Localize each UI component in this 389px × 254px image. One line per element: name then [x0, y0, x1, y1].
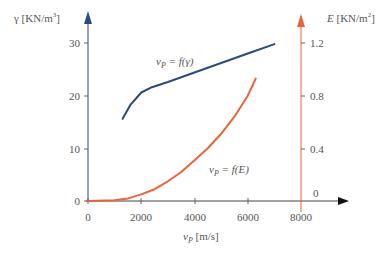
x-axis-title: vP [m/s] — [183, 231, 219, 245]
right-axis-title: E [KN/m2] — [327, 12, 375, 24]
left-tick-label-30: 30 — [50, 38, 80, 49]
series-vp-gamma-annotation: vP = f(γ) — [156, 56, 193, 70]
left-tick-label-10: 10 — [50, 144, 80, 155]
x-tick-label-8000: 8000 — [281, 212, 321, 223]
right-axis-title-close: ] — [371, 12, 375, 24]
left-tick-label-20: 20 — [50, 91, 80, 102]
annotation2-eq: = f(E) — [219, 163, 249, 175]
right-axis-title-var: E — [327, 12, 334, 24]
x-tick-label-0: 0 — [68, 212, 108, 223]
right-axis-title-text: [KN/m — [334, 12, 368, 24]
series-vp-e-annotation: vP = f(E) — [209, 164, 249, 178]
x-tick-label-6000: 6000 — [228, 212, 268, 223]
series-vp-e-line — [88, 79, 256, 202]
x-axis-arrow-icon — [338, 197, 349, 205]
right-tick-label-0.4: 0.4 — [310, 144, 324, 155]
right-tick-label-1.2: 1.2 — [310, 38, 324, 49]
left-y-axis-ticks — [84, 43, 88, 201]
series-vp-gamma-line — [123, 44, 275, 119]
annotation1-eq: = f(γ) — [166, 55, 194, 67]
x-tick-label-2000: 2000 — [121, 212, 161, 223]
left-axis-title-text: γ [KN/m — [14, 12, 53, 24]
x-tick-label-4000: 4000 — [175, 212, 215, 223]
x-axis-title-unit: [m/s] — [193, 230, 219, 242]
left-tick-label-0: 0 — [50, 196, 80, 207]
right-tick-label-0: 0 — [313, 188, 319, 199]
left-axis-title: γ [KN/m3] — [14, 12, 60, 24]
right-tick-label-0.8: 0.8 — [310, 91, 324, 102]
left-axis-title-close: ] — [56, 12, 60, 24]
left-axis-arrow-icon — [84, 11, 92, 24]
right-axis-arrow-icon — [297, 14, 305, 27]
right-y-axis-ticks — [301, 43, 305, 149]
